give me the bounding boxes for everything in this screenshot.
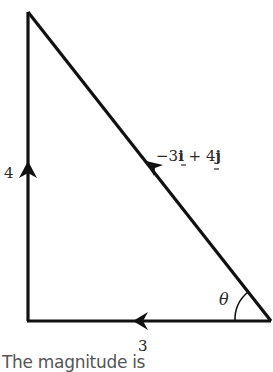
vector-coefficient-j: + 4 — [184, 147, 216, 165]
angle-label: θ — [219, 290, 229, 309]
caption-text: The magnitude is — [2, 352, 145, 372]
vector-coefficient-i: −3 — [156, 147, 178, 165]
unit-vector-j: j — [213, 147, 220, 165]
vertical-side-label: 4 — [4, 164, 14, 182]
angle-arc — [235, 292, 248, 321]
hypotenuse-vector-label: −3i + 4j — [156, 147, 221, 165]
